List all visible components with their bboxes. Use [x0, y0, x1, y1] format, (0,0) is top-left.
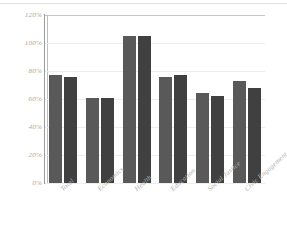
- gridline: [45, 183, 265, 184]
- y-axis-tick-label: 80%: [2, 67, 42, 75]
- y-axis-tick-label: 0%: [2, 179, 42, 187]
- y-axis-tick-label: 120%: [2, 11, 42, 19]
- bar-group: [159, 15, 187, 183]
- bar[interactable]: [64, 77, 77, 183]
- bar[interactable]: [196, 93, 209, 183]
- bar-group: [196, 15, 224, 183]
- bar[interactable]: [138, 36, 151, 183]
- bar-group: [49, 15, 77, 183]
- y-axis-tick-label: 20%: [2, 151, 42, 159]
- y-axis-tick-label: 100%: [2, 39, 42, 47]
- bar[interactable]: [211, 96, 224, 183]
- bar-chart: 0%20%40%60%80%100%120% TotalEconomicsHea…: [0, 0, 287, 245]
- bar[interactable]: [159, 77, 172, 183]
- bar[interactable]: [101, 98, 114, 183]
- bar-group: [233, 15, 261, 183]
- bar[interactable]: [248, 88, 261, 183]
- plot-area: [45, 15, 265, 183]
- top-divider-rule: [0, 3, 287, 4]
- bar-group: [123, 15, 151, 183]
- bar[interactable]: [86, 98, 99, 183]
- y-axis-tick-label: 60%: [2, 95, 42, 103]
- y-axis-tick-label: 40%: [2, 123, 42, 131]
- bar[interactable]: [123, 36, 136, 183]
- y-axis-tick-labels: 0%20%40%60%80%100%120%: [0, 0, 42, 245]
- bar[interactable]: [49, 75, 62, 183]
- bar-group: [86, 15, 114, 183]
- bar[interactable]: [174, 75, 187, 183]
